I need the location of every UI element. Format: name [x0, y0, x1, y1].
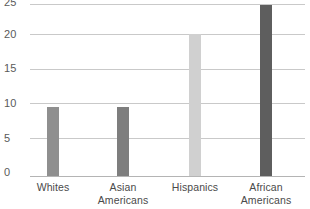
x-label-asian-line1: Asian [83, 181, 163, 194]
bars-layer [0, 0, 310, 209]
x-label-african-americans: African Americans [226, 181, 306, 207]
bar-chart: 25 20 15 10 5 0 Whites Asian Americans H… [0, 0, 310, 209]
bar-hispanics[interactable] [189, 34, 201, 176]
x-label-african-line2: Americans [226, 194, 306, 207]
x-label-whites: Whites [13, 181, 93, 194]
x-label-asian-line2: Americans [83, 194, 163, 207]
bar-asian-americans[interactable] [117, 107, 129, 176]
x-label-hispanics: Hispanics [155, 181, 235, 194]
x-label-whites-line1: Whites [13, 181, 93, 194]
x-label-asian-americans: Asian Americans [83, 181, 163, 207]
bar-whites[interactable] [47, 107, 59, 176]
x-label-african-line1: African [226, 181, 306, 194]
bar-african-americans[interactable] [260, 5, 272, 176]
x-axis-labels: Whites Asian Americans Hispanics African… [0, 181, 310, 209]
x-label-hispanics-line1: Hispanics [155, 181, 235, 194]
